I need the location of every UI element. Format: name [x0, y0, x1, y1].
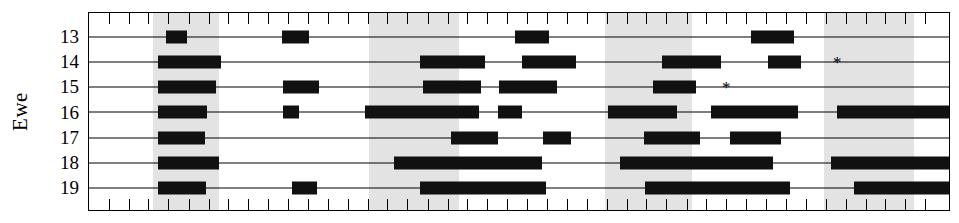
bout-bar	[283, 81, 320, 94]
bout-bar	[653, 81, 696, 94]
bout-bar	[499, 81, 557, 94]
bout-bar	[365, 106, 479, 119]
timeline-row	[89, 100, 949, 125]
bout-bar	[283, 106, 298, 119]
bout-bar	[423, 81, 481, 94]
bout-bar	[166, 30, 187, 43]
y-axis-tick-label: 13	[60, 27, 79, 46]
bout-bar	[515, 30, 549, 43]
bout-bar	[158, 131, 205, 144]
bout-bar	[394, 157, 542, 170]
bout-bar	[645, 182, 790, 195]
bout-bar	[543, 131, 571, 144]
y-axis-tick-label: 16	[60, 103, 79, 122]
bout-bar	[620, 157, 773, 170]
timeline-row	[89, 150, 949, 175]
y-axis-tick-label: 14	[60, 52, 79, 71]
bout-bar	[644, 131, 700, 144]
timeline-row	[89, 125, 949, 150]
bout-bar	[158, 106, 207, 119]
bout-bar	[662, 55, 721, 68]
plot-area: **	[88, 12, 950, 211]
bout-bar	[751, 30, 794, 43]
row-baseline	[89, 137, 949, 138]
timeline-row: *	[89, 75, 949, 100]
asterisk-annotation: *	[722, 79, 731, 96]
bout-bar	[711, 106, 799, 119]
y-axis-title: Ewe	[0, 0, 40, 223]
bout-bar	[854, 182, 949, 195]
bout-bar	[158, 157, 219, 170]
timeline-row	[89, 176, 949, 201]
bout-bar	[158, 55, 222, 68]
bout-bar	[158, 81, 216, 94]
timeline-rows: **	[89, 13, 949, 210]
bout-bar	[608, 106, 678, 119]
timeline-row	[89, 24, 949, 49]
timeline-row: *	[89, 49, 949, 74]
bout-bar	[498, 106, 522, 119]
y-axis-title-text: Ewe	[7, 92, 32, 131]
bout-bar	[292, 182, 317, 195]
bout-bar	[158, 182, 206, 195]
bout-bar	[420, 182, 546, 195]
bout-bar	[522, 55, 575, 68]
bout-bar	[451, 131, 498, 144]
bout-bar	[282, 30, 310, 43]
y-axis-tick-label: 19	[60, 178, 79, 197]
y-axis-tick-label: 18	[60, 153, 79, 172]
y-axis-tick-label: 15	[60, 77, 79, 96]
asterisk-annotation: *	[833, 53, 842, 70]
bout-bar	[768, 55, 801, 68]
bout-bar	[420, 55, 485, 68]
bout-bar	[837, 106, 949, 119]
y-axis-tick-labels: 13141516171819	[40, 12, 85, 212]
y-axis-tick-label: 17	[60, 128, 79, 147]
bout-bar	[831, 157, 949, 170]
chart-root: Ewe 13141516171819 **	[0, 0, 959, 223]
bout-bar	[730, 131, 782, 144]
